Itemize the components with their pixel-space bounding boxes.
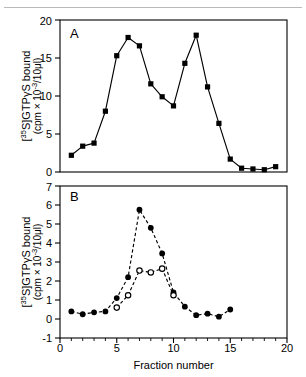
- panel-a-plot-frame: [60, 20, 287, 172]
- xtick-0: 0: [57, 342, 63, 354]
- data-point: [68, 309, 74, 315]
- data-point: [205, 311, 211, 317]
- panel-a-ytick-5: 5: [46, 128, 52, 140]
- data-point: [160, 94, 165, 99]
- data-point: [91, 141, 96, 146]
- panel-b-y-ticks: [55, 186, 60, 338]
- data-point: [148, 270, 153, 275]
- data-point: [193, 312, 199, 318]
- panel-b-letter: B: [70, 189, 79, 204]
- xtick-15: 15: [224, 342, 236, 354]
- svg-text:[35S]GTPγS bound: [35S]GTPγS bound: [19, 51, 32, 142]
- panel-a-series-markers: [69, 33, 279, 173]
- data-point: [91, 309, 97, 315]
- panel-b-ytick-5: 5: [46, 218, 52, 230]
- panel-b-ytick-1: 1: [46, 294, 52, 306]
- data-point: [227, 307, 233, 313]
- xtick-5: 5: [114, 342, 120, 354]
- data-point: [159, 251, 165, 257]
- data-point: [80, 144, 85, 149]
- data-point: [171, 103, 176, 108]
- data-point: [159, 266, 164, 271]
- data-point: [125, 274, 131, 280]
- data-point: [216, 121, 221, 126]
- two-panel-chromatography-figure: 0 5 10 15 20 A [35S]GTPγS bound (cpm × 1…: [0, 0, 306, 377]
- panel-b-ytick-7: 7: [46, 181, 52, 193]
- data-point: [137, 268, 142, 273]
- panel-b-ytick-4: 4: [46, 237, 52, 249]
- data-point: [273, 164, 278, 169]
- data-point: [114, 295, 120, 301]
- data-point: [205, 84, 210, 89]
- data-point: [126, 35, 131, 40]
- panel-b-ytick-neg1: -1: [42, 332, 52, 344]
- data-point: [239, 166, 244, 171]
- panel-a-y-ticks: [55, 20, 60, 172]
- svg-text:[35S]GTPγS bound: [35S]GTPγS bound: [19, 217, 32, 308]
- panel-a-y-axis-title: [35S]GTPγS bound (cpm × 10-3/10μl): [19, 51, 43, 142]
- data-point: [216, 314, 222, 320]
- data-point: [194, 33, 199, 38]
- panel-b-y-axis-title: [35S]GTPγS bound (cpm × 10-3/10μl): [19, 217, 43, 308]
- panel-b-ytick-3: 3: [46, 256, 52, 268]
- data-point: [80, 311, 86, 317]
- panel-b-open-series-markers: [114, 266, 176, 310]
- data-point: [69, 153, 74, 158]
- panel-b-open-series-line: [117, 269, 174, 308]
- panel-b-filled-series-markers: [68, 207, 233, 320]
- data-point: [103, 309, 109, 315]
- data-point: [228, 156, 233, 161]
- data-point: [148, 81, 153, 86]
- xtick-10: 10: [167, 342, 179, 354]
- panel-a: 0 5 10 15 20 A: [40, 15, 287, 178]
- panel-a-ytick-0: 0: [46, 166, 52, 178]
- panel-b-ytick-6: 6: [46, 199, 52, 211]
- panel-b: -1 0 1 2 3 4 5 6 7 B 0 5 10 15 20: [42, 181, 293, 354]
- panel-b-ytick-0: 0: [46, 313, 52, 325]
- data-point: [137, 207, 143, 213]
- data-point: [125, 293, 130, 298]
- svg-text:(cpm × 10-3/10μl): (cpm × 10-3/10μl): [30, 224, 43, 301]
- xtick-20: 20: [281, 342, 293, 354]
- data-point: [114, 305, 119, 310]
- data-point: [250, 166, 255, 171]
- data-point: [148, 225, 154, 231]
- data-point: [137, 43, 142, 48]
- panel-a-letter: A: [70, 26, 79, 41]
- panel-a-ytick-20: 20: [40, 15, 52, 27]
- svg-text:(cpm × 10-3/10μl): (cpm × 10-3/10μl): [30, 58, 43, 135]
- data-point: [182, 304, 188, 310]
- figure-root: 0 5 10 15 20 A [35S]GTPγS bound (cpm × 1…: [0, 0, 306, 377]
- panel-a-series-line: [71, 35, 275, 170]
- x-axis-title: Fraction number: [133, 359, 213, 371]
- data-point: [103, 109, 108, 114]
- data-point: [114, 53, 119, 58]
- data-point: [262, 167, 267, 172]
- data-point: [182, 61, 187, 66]
- panel-b-ytick-2: 2: [46, 275, 52, 287]
- data-point: [171, 293, 176, 298]
